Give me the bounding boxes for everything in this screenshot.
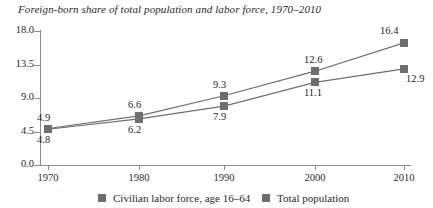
data-point-marker [400,65,408,73]
data-point-marker [311,67,319,75]
data-point-label: 4.9 [37,112,50,123]
data-point-label: 6.6 [128,99,141,110]
y-tick-label: 4.5 [4,125,34,136]
x-axis-line [40,165,411,166]
y-tick-mark [34,98,40,99]
data-point-label: 6.2 [128,124,141,135]
legend-label: Civilian labor force, age 16–64 [113,192,250,204]
y-axis-line [40,30,41,166]
data-point-label: 12.6 [304,54,322,65]
data-point-label: 7.9 [213,111,226,122]
data-point-marker [220,92,228,100]
chart-figure: Foreign-born share of total population a… [0,0,433,208]
x-tick-mark [48,165,49,170]
x-tick-mark [315,165,316,170]
data-point-marker [220,102,228,110]
y-tick-mark [34,132,40,133]
x-tick-label: 2000 [305,172,326,183]
legend-item-civilian-labor-force[interactable]: Civilian labor force, age 16–64 [98,190,250,206]
x-tick-label: 2010 [394,172,415,183]
x-tick-label: 1990 [214,172,235,183]
x-tick-label: 1970 [38,172,59,183]
y-tick-label: 18.0 [4,24,34,35]
x-tick-mark [224,165,225,170]
y-tick-label: 9.0 [4,91,34,102]
data-point-label: 16.4 [380,25,398,36]
data-point-marker [135,115,143,123]
data-point-label: 12.9 [406,73,424,84]
chart-title: Foreign-born share of total population a… [18,3,321,15]
chart-legend: Civilian labor force, age 16–64 Total po… [0,190,433,208]
y-tick-mark [34,65,40,66]
data-point-marker [400,39,408,47]
y-tick-mark [34,165,40,166]
y-tick-label: 0.0 [4,158,34,169]
data-point-marker [311,78,319,86]
legend-item-total-population[interactable]: Total population [262,190,349,206]
data-point-label: 9.3 [213,79,226,90]
data-point-label: 4.8 [37,134,50,145]
y-tick-label: 13.5 [4,58,34,69]
x-tick-label: 1980 [129,172,150,183]
data-point-marker [44,125,52,133]
data-point-label: 11.1 [304,87,322,98]
legend-swatch-icon [262,194,270,202]
x-tick-mark [404,165,405,170]
legend-swatch-icon [98,194,106,202]
legend-label: Total population [277,192,349,204]
y-tick-mark [34,31,40,32]
x-tick-mark [139,165,140,170]
